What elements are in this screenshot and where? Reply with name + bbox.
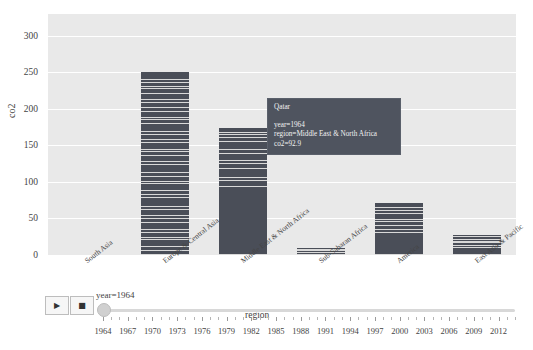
slider-tick-minor <box>490 317 491 320</box>
slider-tick-minor <box>185 317 186 320</box>
slider-tick-minor <box>515 317 516 320</box>
slider-tick-major <box>227 317 228 321</box>
year-slider-track[interactable] <box>103 309 515 312</box>
slider-tick-label: 1982 <box>243 326 260 336</box>
bar-segment[interactable] <box>219 142 267 150</box>
play-button[interactable]: ▶ <box>45 296 69 315</box>
bar-segment[interactable] <box>141 184 189 191</box>
bar-segment[interactable] <box>141 80 189 83</box>
bar-segment[interactable] <box>375 222 423 226</box>
bar-segment[interactable] <box>375 203 423 207</box>
bar-segment[interactable] <box>141 156 189 162</box>
bar-segment[interactable] <box>141 182 189 184</box>
bar-segment[interactable] <box>141 165 189 173</box>
slider-tick-major <box>474 317 475 321</box>
slider-tick-minor <box>235 317 236 320</box>
slider-tick-major <box>499 317 500 321</box>
slider-tick-major <box>202 317 203 321</box>
slider-tick-major <box>177 317 178 321</box>
bar-segment[interactable] <box>141 207 189 211</box>
slider-tick-minor <box>111 317 112 320</box>
bar-segment[interactable] <box>375 208 423 212</box>
slider-tick-minor <box>293 317 294 320</box>
slider-tick-minor <box>391 317 392 320</box>
gridline <box>48 182 516 183</box>
bar-segment[interactable] <box>141 120 189 124</box>
bar-segment[interactable] <box>141 230 189 233</box>
bar-segment[interactable] <box>141 87 189 89</box>
bar-segment[interactable] <box>141 162 189 165</box>
slider-tick-major <box>128 317 129 321</box>
slider-tick-minor <box>383 317 384 320</box>
bar-segment[interactable] <box>219 169 267 178</box>
slider-tick-minor <box>342 317 343 320</box>
slider-tick-minor <box>334 317 335 320</box>
slider-tick-label: 1997 <box>366 326 383 336</box>
slider-tick-minor <box>243 317 244 320</box>
year-slider-handle[interactable] <box>97 303 111 317</box>
bar-segment[interactable] <box>141 108 189 112</box>
bar-segment[interactable] <box>141 233 189 238</box>
bar-segment[interactable] <box>141 173 189 177</box>
bar-middle-east-north-africa[interactable] <box>219 128 267 255</box>
y-axis-tick-label: 0 <box>0 250 38 260</box>
bar-segment[interactable] <box>141 177 189 182</box>
bar-segment[interactable] <box>219 161 267 164</box>
slider-tick-minor <box>119 317 120 320</box>
bar-segment[interactable] <box>141 219 189 223</box>
slider-tick-minor <box>144 317 145 320</box>
bar-segment[interactable] <box>375 220 423 222</box>
slider-tick-major <box>103 317 104 321</box>
bar-segment[interactable] <box>141 103 189 108</box>
bar-segment[interactable] <box>141 112 189 118</box>
slider-current-value-label: year=1964 <box>96 290 135 300</box>
bar-segment[interactable] <box>219 138 267 142</box>
slider-tick-major <box>449 317 450 321</box>
bar-segment[interactable] <box>141 152 189 156</box>
bar-segment[interactable] <box>141 216 189 218</box>
bar-segment[interactable] <box>453 235 501 237</box>
bar-segment[interactable] <box>141 76 189 80</box>
bar-segment[interactable] <box>141 198 189 207</box>
stop-button[interactable]: ■ <box>70 296 94 315</box>
bar-segment[interactable] <box>141 94 189 101</box>
bar-segment[interactable] <box>219 181 267 187</box>
slider-tick-label: 1994 <box>342 326 359 336</box>
bar-segment[interactable] <box>141 140 189 144</box>
bar-segment[interactable] <box>141 124 189 131</box>
bar-segment[interactable] <box>141 191 189 195</box>
bar-segment[interactable] <box>141 143 189 150</box>
bar-segment[interactable] <box>141 135 189 140</box>
slider-tick-label: 2009 <box>465 326 482 336</box>
bar-segment[interactable] <box>141 100 189 103</box>
bar-segment[interactable] <box>141 210 189 216</box>
bar-segment[interactable] <box>141 150 189 152</box>
bar-segment[interactable] <box>219 135 267 138</box>
bar-segment[interactable] <box>375 211 423 214</box>
slider-tick-minor <box>317 317 318 320</box>
bar-segment[interactable] <box>219 133 267 135</box>
bar-segment[interactable] <box>141 83 189 87</box>
bar-segment[interactable] <box>219 150 267 154</box>
bar-segment[interactable] <box>141 89 189 93</box>
bar-segment[interactable] <box>219 178 267 182</box>
bar-segment[interactable] <box>141 223 189 230</box>
bar-europe-central-asia[interactable] <box>141 72 189 255</box>
bar-segment[interactable] <box>375 230 423 233</box>
bar-segment[interactable] <box>219 128 267 133</box>
bar-segment[interactable] <box>141 195 189 198</box>
bar-segment[interactable] <box>141 118 189 120</box>
bar-segment[interactable] <box>219 154 267 161</box>
bar-segment[interactable] <box>375 226 423 230</box>
slider-tick-label: 2000 <box>391 326 408 336</box>
bar-segment[interactable] <box>453 237 501 239</box>
bar-segment[interactable] <box>141 132 189 135</box>
tooltip-row-co2: co2=92.9 <box>274 140 395 150</box>
slider-tick-label: 1985 <box>268 326 285 336</box>
slider-tick-minor <box>358 317 359 320</box>
bar-segment[interactable] <box>375 214 423 220</box>
gridline <box>48 72 516 73</box>
bar-segment[interactable] <box>219 164 267 169</box>
slider-tick-label: 2003 <box>416 326 433 336</box>
slider-tick-major <box>276 317 277 321</box>
